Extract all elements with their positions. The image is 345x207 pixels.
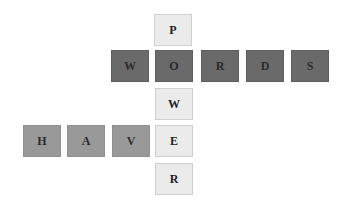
tile-s: S	[291, 50, 329, 82]
tile-letter: W	[168, 97, 180, 112]
tile-letter: R	[216, 59, 225, 74]
tile-letter: H	[37, 134, 46, 149]
tile-w-words: W	[111, 50, 149, 82]
tile-v: V	[112, 125, 150, 157]
tile-e: E	[155, 125, 193, 157]
tile-letter: W	[124, 59, 136, 74]
tile-letter: V	[127, 134, 136, 149]
tile-o: O	[155, 50, 193, 82]
tile-p: P	[154, 14, 192, 46]
tile-letter: S	[307, 59, 314, 74]
tile-letter: D	[261, 59, 270, 74]
tile-r-words: R	[201, 50, 239, 82]
tile-letter: O	[169, 59, 178, 74]
tile-letter: A	[82, 134, 91, 149]
tile-h: H	[23, 125, 61, 157]
tile-letter: E	[170, 134, 178, 149]
tile-d: D	[246, 50, 284, 82]
tile-a: A	[67, 125, 105, 157]
tile-w-power: W	[155, 88, 193, 120]
tile-r-power: R	[155, 163, 193, 195]
tile-letter: P	[169, 23, 176, 38]
tile-letter: R	[170, 172, 179, 187]
